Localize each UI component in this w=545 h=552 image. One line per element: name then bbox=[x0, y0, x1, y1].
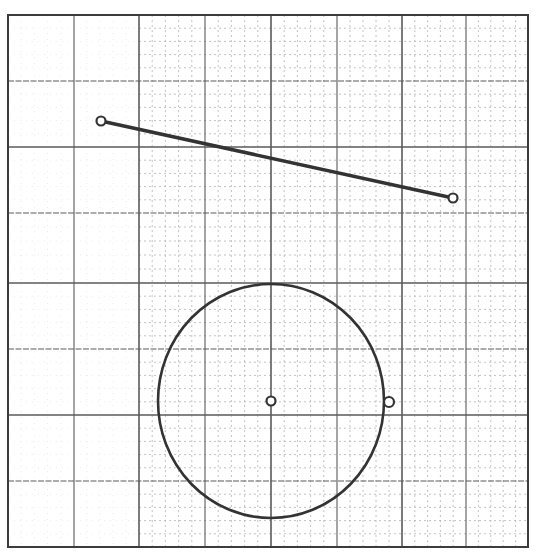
major-grid bbox=[8, 15, 528, 547]
minor-grid bbox=[8, 15, 528, 547]
circle-radius-point[interactable] bbox=[384, 397, 394, 407]
segment-start-point[interactable] bbox=[97, 117, 106, 126]
line-segment[interactable] bbox=[101, 121, 453, 198]
segment-end-point[interactable] bbox=[449, 194, 458, 203]
geometry-canvas[interactable] bbox=[0, 0, 545, 552]
grid-border bbox=[8, 15, 528, 547]
circle-center-point[interactable] bbox=[267, 397, 276, 406]
